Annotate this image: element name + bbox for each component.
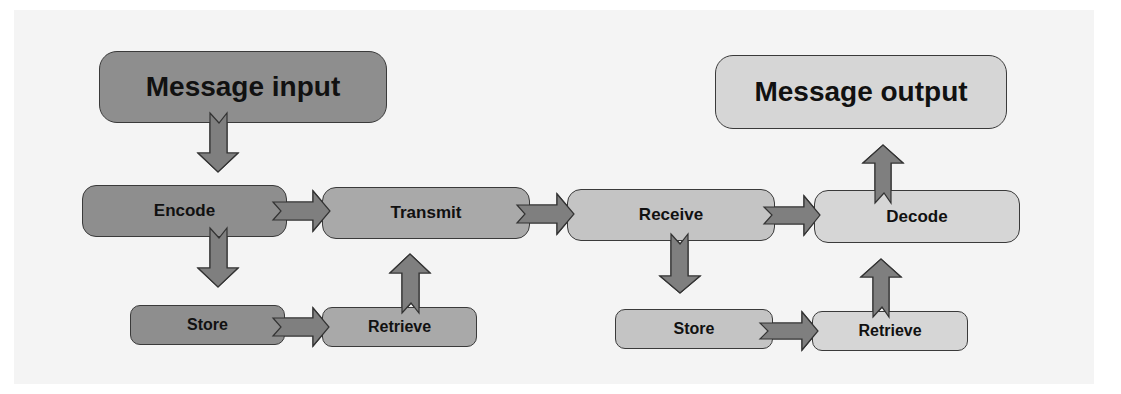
node-store-sender: Store bbox=[130, 305, 285, 345]
node-message-input: Message input bbox=[99, 51, 387, 123]
node-label: Message output bbox=[754, 76, 967, 108]
node-encode: Encode bbox=[82, 185, 287, 237]
node-receive: Receive bbox=[567, 189, 775, 241]
node-label: Retrieve bbox=[858, 322, 921, 340]
node-transmit: Transmit bbox=[322, 187, 530, 239]
node-label: Encode bbox=[154, 201, 215, 221]
node-label: Receive bbox=[639, 205, 703, 225]
node-label: Message input bbox=[146, 71, 340, 103]
node-label: Transmit bbox=[391, 203, 462, 223]
node-label: Decode bbox=[886, 207, 947, 227]
node-label: Store bbox=[674, 320, 715, 338]
node-message-output: Message output bbox=[715, 55, 1007, 129]
node-label: Store bbox=[187, 316, 228, 334]
node-decode: Decode bbox=[814, 190, 1020, 243]
node-store-receiver: Store bbox=[615, 309, 773, 349]
node-retrieve-sender: Retrieve bbox=[322, 307, 477, 347]
node-label: Retrieve bbox=[368, 318, 431, 336]
node-retrieve-receiver: Retrieve bbox=[812, 311, 968, 351]
